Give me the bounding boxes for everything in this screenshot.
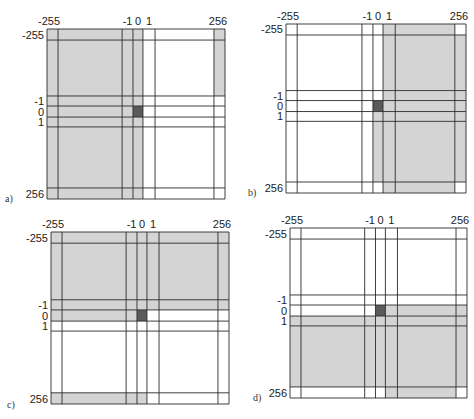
shaded-cell — [122, 40, 133, 96]
shaded-cell — [47, 40, 58, 96]
column-label: 0 — [139, 218, 145, 230]
shaded-cell — [58, 188, 122, 199]
shaded-cell — [58, 117, 122, 127]
shaded-cell — [122, 96, 133, 106]
shaded-cell — [137, 300, 147, 310]
shaded-cell — [133, 29, 143, 40]
shaded-cell — [455, 91, 466, 101]
figure: -255-101256-255-101256a)-255-101256-255-… — [0, 0, 474, 419]
shaded-cell — [122, 117, 133, 127]
shaded-cell — [395, 91, 455, 101]
shaded-cell — [47, 96, 58, 106]
column-label: 1 — [146, 15, 152, 27]
column-label: 1 — [388, 214, 394, 226]
shaded-cell — [455, 121, 466, 182]
shaded-cell — [47, 29, 58, 40]
column-label: 1 — [386, 10, 392, 22]
shaded-cell — [51, 300, 62, 310]
row-label: 1 — [281, 315, 287, 327]
shaded-cell — [51, 393, 62, 404]
panel-label: d) — [253, 392, 261, 404]
column-label: -1 — [365, 214, 375, 226]
shaded-cell — [214, 29, 225, 40]
shaded-cell — [214, 40, 225, 96]
shaded-cell — [159, 243, 218, 300]
column-label: -255 — [42, 218, 64, 230]
shaded-cell — [455, 35, 466, 91]
shaded-cell — [385, 305, 397, 316]
center-cell — [137, 310, 147, 321]
shaded-cell — [395, 35, 455, 91]
shaded-cell — [397, 316, 456, 326]
shaded-cell — [218, 243, 229, 300]
row-label: -255 — [22, 29, 44, 41]
shaded-cell — [51, 232, 62, 243]
column-label: 0 — [375, 10, 381, 22]
shaded-cell — [133, 127, 143, 188]
shaded-cell — [137, 393, 147, 404]
shaded-cell — [397, 326, 456, 387]
shaded-cell — [58, 106, 122, 117]
shaded-cell — [137, 243, 147, 300]
shaded-cell — [147, 300, 159, 310]
shaded-cell — [126, 300, 137, 310]
column-label: -1 — [127, 218, 137, 230]
shaded-cell — [58, 96, 122, 106]
shaded-cell — [290, 316, 301, 326]
shaded-cell — [147, 232, 159, 243]
panel-c: -255-101256-255-101256c) — [7, 218, 231, 411]
shaded-cell — [122, 106, 133, 117]
column-label: 0 — [135, 15, 141, 27]
shaded-cell — [62, 232, 126, 243]
shaded-cell — [159, 232, 218, 243]
column-label: -1 — [363, 10, 373, 22]
column-label: -255 — [38, 15, 60, 27]
column-label: 256 — [451, 214, 469, 226]
shaded-cell — [133, 188, 143, 199]
shaded-cell — [385, 387, 397, 398]
shaded-cell — [58, 127, 122, 188]
panel-label: c) — [7, 399, 15, 411]
shaded-cell — [126, 393, 137, 404]
shaded-cell — [47, 127, 58, 188]
shaded-cell — [133, 96, 143, 106]
shaded-cell — [133, 40, 143, 96]
shaded-cell — [383, 182, 395, 193]
shaded-cell — [62, 243, 126, 300]
panel-a: -255-101256-255-101256a) — [5, 15, 227, 205]
column-label: 256 — [209, 15, 227, 27]
shaded-cell — [301, 326, 365, 387]
shaded-cell — [122, 127, 133, 188]
column-label: 256 — [450, 10, 468, 22]
shaded-cell — [218, 300, 229, 310]
shaded-cell — [301, 316, 365, 326]
shaded-cell — [395, 112, 455, 122]
shaded-cell — [383, 121, 395, 182]
row-label: 256 — [265, 182, 283, 194]
shaded-cell — [51, 310, 62, 321]
shaded-cell — [126, 232, 137, 243]
shaded-cell — [375, 326, 385, 387]
column-label: -1 — [123, 15, 133, 27]
shaded-cell — [397, 387, 456, 398]
shaded-cell — [137, 232, 147, 243]
shaded-cell — [122, 29, 133, 40]
row-label: 256 — [269, 387, 287, 399]
shaded-cell — [395, 121, 455, 182]
shaded-cell — [383, 24, 395, 35]
shaded-cell — [395, 101, 455, 112]
shaded-cell — [456, 326, 467, 387]
shaded-cell — [62, 393, 126, 404]
shaded-cell — [47, 106, 58, 117]
shaded-cell — [395, 24, 455, 35]
panel-label: a) — [5, 193, 13, 205]
shaded-cell — [373, 112, 383, 122]
shaded-cell — [365, 316, 376, 326]
shaded-cell — [365, 326, 376, 387]
center-cell — [375, 305, 385, 316]
center-cell — [133, 106, 143, 117]
row-label: 256 — [26, 188, 44, 200]
shaded-cell — [47, 117, 58, 127]
shaded-cell — [58, 29, 122, 40]
shaded-cell — [375, 316, 385, 326]
